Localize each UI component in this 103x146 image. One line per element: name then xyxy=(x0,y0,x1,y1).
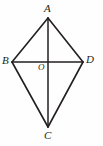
vertex-label-d: D xyxy=(86,54,94,65)
segment-ad xyxy=(48,18,83,62)
vertex-label-b: B xyxy=(2,55,9,66)
segment-cd xyxy=(48,62,83,127)
kite-diagram-svg xyxy=(0,0,103,146)
vertex-label-o: O xyxy=(38,63,45,72)
vertex-label-a: A xyxy=(44,3,51,14)
segment-ab xyxy=(12,18,48,62)
vertex-label-c: C xyxy=(44,130,51,141)
geometry-figure-container: A B C D O xyxy=(0,0,103,146)
